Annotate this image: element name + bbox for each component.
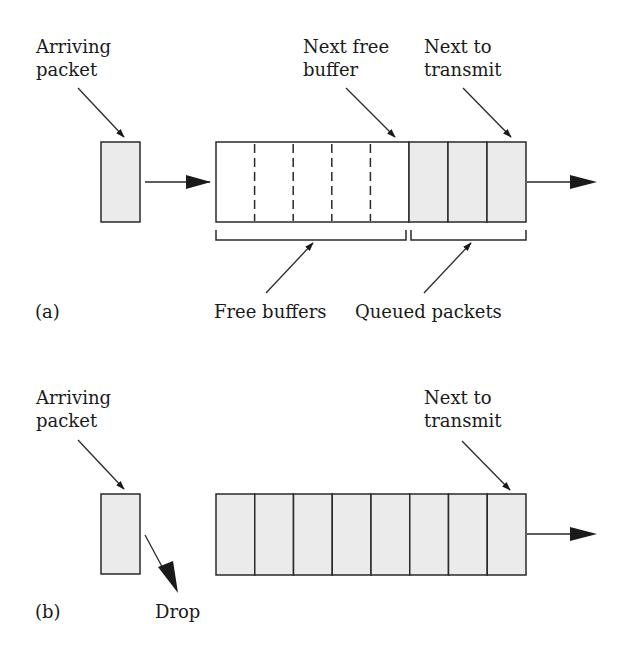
next-transmit-pointer-arrow xyxy=(462,441,510,490)
queued-packet-slot xyxy=(448,142,487,222)
queued-packet-slot xyxy=(371,494,410,575)
queued-packet-slot xyxy=(410,494,449,575)
panel-b: Arriving packet Next to transmit (b) Dro… xyxy=(35,387,597,622)
panel-b-tag: (b) xyxy=(35,601,61,622)
panel-a-tag: (a) xyxy=(35,301,60,322)
output-arrow-head-icon xyxy=(570,527,597,541)
arriving-packet-box xyxy=(101,494,140,574)
next-to-transmit-label-line1: Next to xyxy=(424,387,492,408)
arriving-pointer-arrow xyxy=(78,88,124,137)
input-arrow-head-icon xyxy=(186,175,211,189)
panel-a: Arriving packet Next free buffer Next to… xyxy=(35,36,597,322)
free-buffers-label: Free buffers xyxy=(214,301,327,322)
output-arrow-head-icon xyxy=(570,175,597,189)
queued-packets-label: Queued packets xyxy=(355,301,502,322)
queued-packets-pointer-arrow xyxy=(424,243,471,293)
drop-label: Drop xyxy=(155,601,200,622)
queued-packet-slot xyxy=(255,494,294,575)
arriving-packet-label-line2: packet xyxy=(36,410,98,431)
queued-packet-slot xyxy=(449,494,488,575)
next-to-transmit-label-line2: transmit xyxy=(424,59,502,80)
fifo-queue-diagram: Arriving packet Next free buffer Next to… xyxy=(0,0,629,665)
free-buffers-pointer-arrow xyxy=(266,243,313,293)
arriving-packet-box xyxy=(101,142,140,222)
free-buffers-bracket xyxy=(216,230,406,240)
queued-packet-slot xyxy=(409,142,448,222)
next-to-transmit-label-line2: transmit xyxy=(424,410,502,431)
arriving-pointer-arrow xyxy=(78,440,124,489)
queued-packet-slot xyxy=(332,494,371,575)
arriving-packet-label-line1: Arriving xyxy=(35,387,111,408)
queued-packets-bracket xyxy=(411,230,526,240)
queued-packet-slot-head xyxy=(487,494,526,575)
queued-packet-slot xyxy=(216,494,255,575)
next-transmit-pointer-arrow xyxy=(463,88,511,137)
arriving-packet-label-line2: packet xyxy=(36,59,98,80)
arriving-packet-label-line1: Arriving xyxy=(35,36,111,57)
next-free-pointer-arrow xyxy=(346,88,395,137)
queued-packet-slot xyxy=(294,494,333,575)
queued-packet-slot-head xyxy=(487,142,526,222)
next-free-buffer-label-line1: Next free xyxy=(303,36,389,57)
next-to-transmit-label-line1: Next to xyxy=(424,36,492,57)
free-buffers-region xyxy=(216,142,409,222)
next-free-buffer-label-line2: buffer xyxy=(303,59,359,80)
